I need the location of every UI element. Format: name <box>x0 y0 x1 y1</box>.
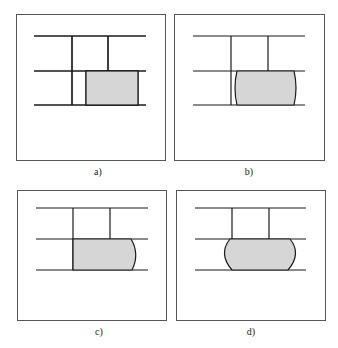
panel-b <box>174 14 325 161</box>
panel-label-d: d) <box>231 326 271 337</box>
shaded-block-a <box>86 71 138 105</box>
panel-c <box>17 190 167 321</box>
panel-label-a: a) <box>78 166 118 177</box>
panel-label-b: b) <box>229 166 269 177</box>
panel-d <box>176 190 326 321</box>
panel-label-c: c) <box>79 326 119 337</box>
